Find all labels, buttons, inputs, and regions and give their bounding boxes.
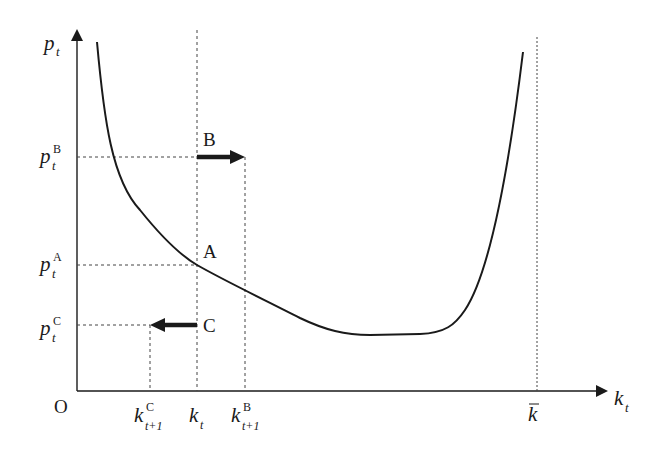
svg-text:p: p	[42, 31, 55, 55]
point-label-C: C	[203, 315, 216, 336]
price-curve	[97, 42, 523, 335]
svg-text:k: k	[189, 403, 199, 427]
y-tick-pA: p t A	[38, 250, 62, 281]
point-label-A: A	[203, 241, 217, 262]
x-tick-kB: k B t+1	[231, 400, 259, 433]
x-axis	[77, 385, 608, 397]
svg-text:C: C	[53, 314, 61, 328]
svg-text:k: k	[528, 402, 538, 426]
x-tick-kbar: k	[528, 402, 539, 426]
x-axis-label: k t	[614, 386, 629, 415]
svg-text:B: B	[243, 400, 251, 414]
arrow-B	[197, 150, 245, 164]
y-axis-label: p t	[42, 31, 60, 59]
y-axis-arrow-icon	[71, 29, 83, 41]
svg-text:B: B	[53, 142, 61, 156]
svg-text:C: C	[146, 400, 154, 414]
diagram-canvas: B A C p t p t B p t A p t C O k C t+1 k …	[0, 0, 665, 453]
y-tick-pC: p t C	[38, 314, 61, 345]
y-axis	[71, 29, 83, 391]
arrow-C	[150, 318, 197, 332]
origin-label: O	[54, 396, 68, 417]
svg-text:A: A	[53, 250, 62, 264]
svg-text:t: t	[52, 330, 56, 345]
svg-text:k: k	[134, 403, 144, 427]
svg-text:p: p	[38, 316, 51, 340]
svg-text:k: k	[614, 386, 624, 410]
svg-text:p: p	[38, 252, 51, 276]
svg-text:t: t	[52, 158, 56, 173]
arrow-right-icon	[230, 150, 245, 164]
svg-text:t: t	[625, 400, 629, 415]
svg-text:k: k	[231, 403, 241, 427]
x-tick-kt: k t	[189, 403, 204, 432]
svg-text:t: t	[200, 418, 204, 432]
svg-text:t+1: t+1	[242, 419, 259, 433]
svg-text:t: t	[56, 44, 60, 59]
x-axis-arrow-icon	[596, 385, 608, 397]
svg-text:t+1: t+1	[145, 419, 162, 433]
svg-text:p: p	[38, 144, 51, 168]
x-tick-kC: k C t+1	[134, 400, 162, 433]
svg-text:t: t	[52, 266, 56, 281]
point-label-B: B	[203, 129, 216, 150]
arrow-left-icon	[150, 318, 165, 332]
guide-lines	[77, 30, 537, 391]
y-tick-pB: p t B	[38, 142, 61, 173]
